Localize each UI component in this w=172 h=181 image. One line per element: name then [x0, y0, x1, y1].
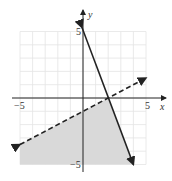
graph-figure: y x −5 5 5 −5	[0, 0, 172, 181]
y-tick-neg5: −5	[70, 159, 81, 170]
coordinate-plane: y x −5 5 5 −5	[0, 0, 172, 181]
y-tick-5: 5	[76, 26, 81, 37]
y-axis-label: y	[87, 9, 93, 20]
x-axis-label: x	[159, 101, 165, 112]
x-tick-neg5: −5	[14, 100, 25, 111]
x-tick-5: 5	[145, 100, 150, 111]
shaded-region	[20, 98, 133, 165]
